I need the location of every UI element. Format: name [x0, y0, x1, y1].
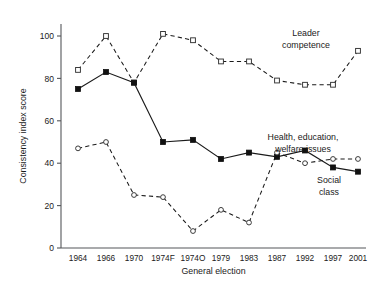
x-tick-label: 1987 — [268, 253, 287, 263]
data-point-marker — [104, 70, 109, 75]
series-annotation-2: Social — [317, 175, 341, 185]
data-point-marker — [132, 80, 137, 85]
data-point-marker — [331, 82, 336, 87]
y-axis-title: Consistency index score — [18, 88, 28, 183]
x-tick-label: 1966 — [97, 253, 116, 263]
x-tick-label: 1983 — [240, 253, 259, 263]
series-annotation-0: Leader — [292, 28, 319, 38]
data-point-marker — [76, 146, 81, 151]
data-point-marker — [247, 59, 252, 64]
series-annotation-1: welfare issues — [274, 144, 331, 154]
data-point-marker — [76, 68, 81, 73]
data-point-marker — [161, 195, 166, 200]
x-tick-label: 1964 — [69, 253, 88, 263]
data-point-marker — [356, 48, 361, 53]
data-point-marker — [219, 59, 224, 64]
y-tick-labels: 020406080100 — [40, 31, 54, 253]
y-tick-label: 80 — [45, 74, 55, 84]
data-point-marker — [191, 38, 196, 43]
data-point-marker — [219, 207, 224, 212]
data-point-marker — [331, 157, 336, 162]
x-tick-label: 1974F — [151, 253, 175, 263]
data-point-marker — [161, 140, 166, 145]
data-point-marker — [247, 150, 252, 155]
data-point-marker — [356, 157, 361, 162]
x-tick-label: 1992 — [296, 253, 315, 263]
x-tick-label: 2001 — [349, 253, 368, 263]
chart-container: 020406080100 1964196619701974F1974O19791… — [0, 0, 381, 298]
x-axis-title: General election — [181, 266, 245, 276]
data-point-marker — [104, 34, 109, 39]
y-tick-label: 60 — [45, 116, 55, 126]
series-annotation-0: competence — [282, 40, 330, 50]
x-tick-label: 1970 — [125, 253, 144, 263]
y-tick-label: 20 — [45, 201, 55, 211]
series-annotations: LeadercompetenceHealth, education,welfar… — [268, 28, 341, 197]
series-line-1 — [78, 72, 358, 172]
series-annotation-2: class — [319, 187, 340, 197]
data-point-marker — [191, 137, 196, 142]
data-point-marker — [247, 220, 252, 225]
data-point-marker — [104, 140, 109, 145]
y-tick-label: 0 — [49, 243, 54, 253]
x-tick-label: 1974O — [181, 253, 206, 263]
tick-marks — [57, 36, 61, 248]
line-chart-svg: 020406080100 1964196619701974F1974O19791… — [0, 0, 381, 298]
data-point-marker — [161, 31, 166, 36]
y-tick-label: 100 — [40, 31, 54, 41]
data-point-marker — [132, 193, 137, 198]
series-line-2 — [78, 142, 358, 231]
data-point-marker — [356, 169, 361, 174]
x-tick-labels: 1964196619701974F1974O197919831987199219… — [69, 253, 368, 263]
data-point-marker — [219, 156, 224, 161]
data-point-marker — [275, 78, 280, 83]
data-point-marker — [191, 229, 196, 234]
x-tick-label: 1979 — [212, 253, 231, 263]
data-point-marker — [331, 165, 336, 170]
x-tick-label: 1997 — [324, 253, 343, 263]
y-tick-label: 40 — [45, 158, 55, 168]
series-annotation-1: Health, education, — [268, 132, 339, 142]
data-point-marker — [303, 161, 308, 166]
data-point-marker — [76, 87, 81, 92]
data-point-marker — [303, 82, 308, 87]
